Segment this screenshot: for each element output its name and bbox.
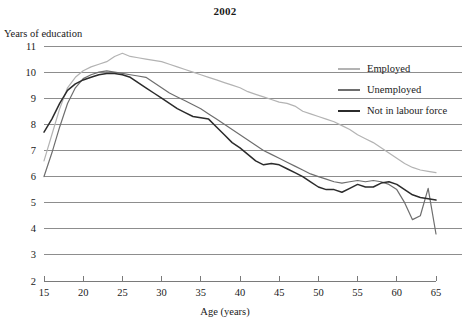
x-tick-label: 35 — [196, 287, 207, 298]
legend-label-not-in-labour-force: Not in labour force — [367, 100, 447, 121]
x-tick-label: 15 — [39, 287, 50, 298]
legend-swatch-employed — [338, 68, 360, 70]
legend-item-employed[interactable]: Employed — [338, 58, 447, 79]
plot-area: 234567891011 1520253035404550556065 — [0, 0, 474, 328]
y-tick-label: 7 — [31, 145, 36, 156]
chart-legend: Employed Unemployed Not in labour force — [338, 58, 447, 121]
x-tick-label: 45 — [274, 287, 285, 298]
legend-swatch-not-in-labour-force — [338, 110, 360, 112]
x-tick-labels-group: 1520253035404550556065 — [39, 287, 442, 298]
x-axis-group — [44, 276, 436, 281]
x-tick-label: 60 — [392, 287, 403, 298]
legend-label-employed: Employed — [367, 58, 410, 79]
x-tick-label: 40 — [235, 287, 246, 298]
chart-figure: 2002 Years of education Age (years) 2345… — [0, 0, 474, 328]
x-tick-label: 30 — [156, 287, 167, 298]
x-tick-label: 25 — [117, 287, 128, 298]
legend-label-unemployed: Unemployed — [367, 79, 421, 100]
y-tick-label: 5 — [31, 197, 36, 208]
y-tick-label: 10 — [26, 67, 37, 78]
y-tick-label: 2 — [31, 276, 36, 287]
y-tick-label: 9 — [31, 93, 36, 104]
x-tick-label: 55 — [352, 287, 363, 298]
y-tick-label: 11 — [26, 41, 36, 52]
legend-item-unemployed[interactable]: Unemployed — [338, 79, 447, 100]
y-tick-label: 3 — [31, 249, 36, 260]
y-tick-label: 4 — [31, 223, 37, 234]
x-tick-label: 65 — [431, 287, 442, 298]
legend-item-not-in-labour-force[interactable]: Not in labour force — [338, 100, 447, 121]
legend-swatch-unemployed — [338, 89, 360, 91]
x-tick-label: 50 — [313, 287, 324, 298]
y-tick-label: 8 — [31, 119, 36, 130]
y-tick-labels-group: 234567891011 — [26, 41, 37, 287]
y-tick-label: 6 — [31, 171, 36, 182]
x-tick-label: 20 — [78, 287, 89, 298]
